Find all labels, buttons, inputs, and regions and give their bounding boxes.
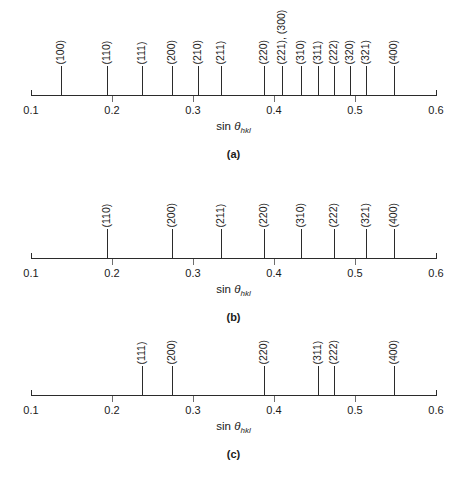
axis-minor-tick-c <box>112 396 113 402</box>
peak-index-label: (400) <box>387 39 398 64</box>
axis-minor-tick-c <box>355 396 356 402</box>
diffraction-peak <box>301 66 302 96</box>
axis-title-b: sin θhkl <box>0 283 467 298</box>
diffraction-panel-c: 0.10.20.30.40.50.6(111)(200)(220)(311)(2… <box>0 320 467 418</box>
x-axis-line-b <box>31 258 436 259</box>
peak-index-label: (321) <box>359 202 370 227</box>
peak-index-label: (110) <box>101 203 112 227</box>
diffraction-peak <box>61 66 62 96</box>
axis-tick-label-c: 0.6 <box>428 405 443 416</box>
axis-minor-tick-b <box>193 259 194 265</box>
axis-tick-label-b: 0.3 <box>185 268 200 279</box>
peak-index-label: (321) <box>359 39 370 64</box>
axis-tick-label-b: 0.5 <box>347 268 362 279</box>
peak-index-label: (320) <box>344 39 355 64</box>
peak-index-label: (400) <box>387 202 398 227</box>
diffraction-peak <box>107 66 108 96</box>
axis-minor-tick-c <box>193 396 194 402</box>
axis-title-a: sin θhkl <box>0 120 467 135</box>
diffraction-peak <box>334 229 335 259</box>
axis-tick-label-a: 0.1 <box>23 105 38 116</box>
diffraction-peak <box>394 66 395 96</box>
axis-tick-label-a: 0.6 <box>428 105 443 116</box>
axis-tick-label-a: 0.4 <box>266 105 281 116</box>
peak-index-label: (110) <box>101 40 112 64</box>
diffraction-figure: 0.10.20.30.40.50.6(100)(110)(111)(200)(2… <box>0 0 467 478</box>
peak-index-label: (310) <box>294 39 305 64</box>
diffraction-peak <box>198 66 199 96</box>
peak-index-label: (222) <box>327 339 338 364</box>
peak-index-label: (311) <box>311 340 322 364</box>
peak-index-label: (100) <box>55 39 66 64</box>
axis-tick-label-a: 0.5 <box>347 105 362 116</box>
axis-minor-tick-c <box>274 396 275 402</box>
diffraction-peak <box>282 66 283 96</box>
axis-end-cap-left-b <box>31 253 32 259</box>
diffraction-peak <box>318 366 319 396</box>
peak-index-label: (310) <box>294 202 305 227</box>
axis-end-cap-left-c <box>31 390 32 396</box>
axis-tick-label-b: 0.4 <box>266 268 281 279</box>
diffraction-peak <box>264 366 265 396</box>
diffraction-peak <box>394 229 395 259</box>
axis-minor-tick-a <box>355 96 356 102</box>
axis-end-cap-right-a <box>436 90 437 96</box>
axis-minor-tick-b <box>274 259 275 265</box>
axis-end-cap-right-b <box>436 253 437 259</box>
axis-minor-tick-a <box>274 96 275 102</box>
peak-index-label: (211) <box>215 40 226 64</box>
diffraction-peak <box>172 229 173 259</box>
diffraction-panel-b: 0.10.20.30.40.50.6(110)(200)(211)(220)(3… <box>0 183 467 281</box>
plot-area-a: 0.10.20.30.40.50.6(100)(110)(111)(200)(2… <box>0 20 467 118</box>
axis-end-cap-left-a <box>31 90 32 96</box>
diffraction-peak <box>221 229 222 259</box>
diffraction-peak <box>394 366 395 396</box>
axis-tick-label-c: 0.5 <box>347 405 362 416</box>
peak-index-label: (210) <box>191 39 202 64</box>
plot-area-b: 0.10.20.30.40.50.6(110)(200)(211)(220)(3… <box>0 183 467 281</box>
peak-index-label: (111) <box>136 41 147 64</box>
peak-index-label: (200) <box>165 202 176 227</box>
axis-tick-label-c: 0.2 <box>104 405 119 416</box>
axis-tick-label-a: 0.3 <box>185 105 200 116</box>
peak-index-label: (311) <box>311 40 322 64</box>
diffraction-peak <box>350 66 351 96</box>
axis-minor-tick-b <box>112 259 113 265</box>
panel-caption-c: (c) <box>0 448 467 460</box>
diffraction-peak <box>107 229 108 259</box>
diffraction-peak <box>172 66 173 96</box>
peak-index-label: (220) <box>257 339 268 364</box>
x-axis-line-c <box>31 395 436 396</box>
hkl-subscript: hkl <box>240 289 250 298</box>
peak-index-label: (222) <box>327 202 338 227</box>
peak-index-label: (400) <box>387 339 398 364</box>
peak-index-label: (211) <box>215 203 226 227</box>
axis-tick-label-c: 0.3 <box>185 405 200 416</box>
axis-minor-tick-b <box>355 259 356 265</box>
axis-tick-label-c: 0.1 <box>23 405 38 416</box>
diffraction-peak <box>264 66 265 96</box>
diffraction-panel-a: 0.10.20.30.40.50.6(100)(110)(111)(200)(2… <box>0 20 467 118</box>
axis-end-cap-right-c <box>436 390 437 396</box>
diffraction-peak <box>172 366 173 396</box>
axis-tick-label-b: 0.6 <box>428 268 443 279</box>
axis-minor-tick-a <box>193 96 194 102</box>
diffraction-peak <box>334 66 335 96</box>
diffraction-peak <box>301 229 302 259</box>
diffraction-peak <box>366 66 367 96</box>
peak-index-label: (200) <box>165 339 176 364</box>
diffraction-peak <box>318 66 319 96</box>
diffraction-peak <box>334 366 335 396</box>
axis-tick-label-b: 0.1 <box>23 268 38 279</box>
axis-minor-tick-a <box>112 96 113 102</box>
axis-tick-label-c: 0.4 <box>266 405 281 416</box>
panel-caption-a: (a) <box>0 148 467 160</box>
peak-index-label: (220) <box>257 39 268 64</box>
diffraction-peak <box>142 366 143 396</box>
peak-index-label: (221), (300) <box>276 9 287 64</box>
axis-title-c: sin θhkl <box>0 420 467 435</box>
diffraction-peak <box>221 66 222 96</box>
hkl-subscript: hkl <box>240 426 250 435</box>
diffraction-peak <box>366 229 367 259</box>
peak-index-label: (220) <box>257 202 268 227</box>
